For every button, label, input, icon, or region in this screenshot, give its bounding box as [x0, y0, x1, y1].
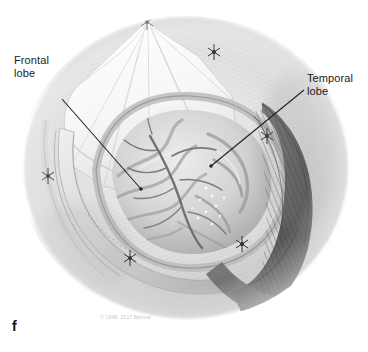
shadow-lower-left — [28, 204, 132, 296]
label-frontal-lobe: Frontal lobe — [14, 54, 49, 79]
leader-temporal-endpoint — [209, 164, 212, 167]
label-temporal-lobe: Temporal lobe — [307, 72, 353, 97]
illustration-body — [8, 14, 348, 326]
copyright-notice: © 1998, 2017 Barrow — [100, 314, 151, 320]
figure-letter: f — [12, 318, 17, 334]
illustration-canvas — [0, 0, 368, 352]
leader-frontal-endpoint — [139, 187, 142, 190]
surgical-illustration-figure: Frontal lobe Temporal lobe © 1998, 2017 … — [0, 0, 368, 352]
